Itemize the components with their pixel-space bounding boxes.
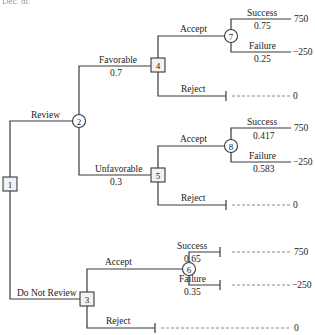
node-8: 8 (225, 140, 238, 153)
node-3-label: 3 (85, 295, 90, 305)
payoff-n7-success: 750 (294, 14, 309, 24)
node-5: 5 (151, 168, 165, 182)
node-2: 2 (73, 115, 86, 128)
label-n6-success: Success (177, 241, 207, 251)
prob-favorable: 0.7 (110, 68, 122, 78)
prob-n7-success: 0.75 (254, 21, 271, 31)
label-review: Review (31, 110, 60, 120)
branch-review (10, 121, 73, 177)
node-2-label: 2 (77, 117, 82, 127)
node-1-label: 1 (8, 180, 13, 190)
prob-n8-failure: 0.583 (253, 164, 275, 174)
payoff-n8-failure: −250 (293, 157, 313, 167)
label-n8-failure: Failure (249, 151, 276, 161)
label-n3-accept: Accept (105, 257, 132, 267)
node-5-label: 5 (156, 171, 161, 181)
node-1: 1 (3, 177, 17, 191)
prob-unfavorable: 0.3 (110, 177, 122, 187)
label-n5-accept: Accept (180, 134, 207, 144)
branch-n3-accept (87, 269, 183, 292)
node-6: 6 (183, 263, 196, 276)
payoff-n6-success: 750 (294, 247, 309, 257)
label-n4-reject: Reject (181, 84, 206, 94)
node-7-label: 7 (229, 32, 234, 42)
prob-n8-success: 0.417 (253, 131, 275, 141)
label-n7-success: Success (247, 8, 277, 18)
node-7: 7 (225, 30, 238, 43)
node-8-label: 8 (229, 142, 234, 152)
payoff-n7-failure: −250 (293, 47, 313, 57)
label-unfavorable: Unfavorable (95, 164, 142, 174)
node-4-label: 4 (156, 61, 161, 71)
label-n3-reject: Reject (106, 316, 131, 326)
prob-n7-failure: 0.25 (254, 54, 271, 64)
node-4: 4 (151, 58, 165, 72)
label-n7-failure: Failure (249, 41, 276, 51)
branch-n5-accept (158, 146, 225, 168)
label-n8-success: Success (247, 117, 277, 127)
label-n4-accept: Accept (180, 24, 207, 34)
branch-do-not-review (10, 191, 81, 299)
prob-n6-failure: 0.35 (184, 287, 201, 297)
header-text: Dec. di. (2, 0, 30, 6)
node-6-label: 6 (187, 265, 192, 275)
label-n6-failure: Failure (179, 274, 206, 284)
payoff-n5-reject: 0 (293, 200, 298, 210)
decision-tree: Dec. di. Review Do Not Review Favorable … (0, 0, 315, 335)
payoff-n8-success: 750 (294, 123, 309, 133)
label-n5-reject: Reject (181, 193, 206, 203)
branch-n4-accept (158, 36, 225, 58)
label-favorable: Favorable (99, 55, 137, 65)
payoff-n3-reject: 0 (294, 323, 299, 333)
payoff-n4-reject: 0 (293, 91, 298, 101)
label-do-not-review: Do Not Review (17, 288, 77, 298)
payoff-n6-failure: −250 (292, 280, 312, 290)
node-3: 3 (80, 292, 94, 306)
